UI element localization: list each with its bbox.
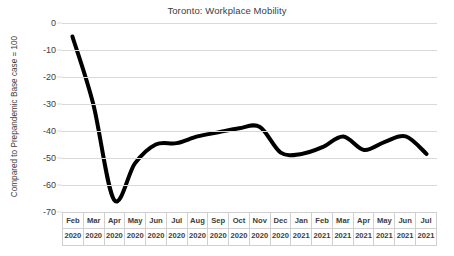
y-axis-tick-mark <box>57 77 62 78</box>
gridline <box>62 158 437 159</box>
x-axis-year-cell: 2020 <box>125 229 146 245</box>
x-axis-year-cell: 2020 <box>63 229 84 245</box>
x-axis-month-cell: Feb <box>63 213 84 229</box>
x-axis-month-cell: May <box>374 213 395 229</box>
x-axis-month-cell: Apr <box>104 213 125 229</box>
gridline <box>62 50 437 51</box>
x-axis-month-cell: Oct <box>229 213 250 229</box>
x-axis-month-cell: Nov <box>249 213 270 229</box>
gridline <box>62 23 437 24</box>
x-axis-labels: FebMarAprMayJunJulAugSepOctNovDecJanFebM… <box>62 212 437 246</box>
x-axis-month-cell: Jan <box>291 213 312 229</box>
y-axis-tick-mark <box>57 104 62 105</box>
x-axis-year-cell: 2021 <box>395 229 416 245</box>
y-axis-tick-label: -70 <box>24 207 56 217</box>
x-axis-month-cell: Jul <box>416 213 437 229</box>
x-axis-year-cell: 2020 <box>104 229 125 245</box>
x-axis-month-cell: Jun <box>146 213 167 229</box>
x-axis-year-cell: 2020 <box>249 229 270 245</box>
x-axis-year-cell: 2021 <box>416 229 437 245</box>
x-axis-year-cell: 2020 <box>187 229 208 245</box>
workplace-mobility-chart: Toronto: Workplace Mobility Compared to … <box>0 0 454 256</box>
x-axis-year-cell: 2020 <box>146 229 167 245</box>
series-path <box>72 37 426 202</box>
x-axis-month-row: FebMarAprMayJunJulAugSepOctNovDecJanFebM… <box>63 213 437 229</box>
chart-title: Toronto: Workplace Mobility <box>0 5 454 16</box>
y-axis-tick-mark <box>57 23 62 24</box>
y-axis-tick-mark <box>57 131 62 132</box>
x-axis-month-cell: Feb <box>312 213 333 229</box>
x-axis-year-cell: 2020 <box>229 229 250 245</box>
x-axis-year-cell: 2021 <box>312 229 333 245</box>
y-axis-tick-label: -30 <box>24 99 56 109</box>
gridline <box>62 104 437 105</box>
y-axis-tick-mark <box>57 50 62 51</box>
series-line-workplace-mobility <box>62 23 437 212</box>
x-axis-month-cell: Jun <box>395 213 416 229</box>
y-axis-tick-mark <box>57 185 62 186</box>
x-axis-year-cell: 2021 <box>353 229 374 245</box>
x-axis-year-cell: 2020 <box>208 229 229 245</box>
x-axis-month-cell: Jul <box>166 213 187 229</box>
x-axis-year-row: 2020202020202020202020202020202020202020… <box>63 229 437 245</box>
y-axis-tick-label: -40 <box>24 126 56 136</box>
y-axis-tick-label: 0 <box>24 18 56 28</box>
x-axis-year-cell: 2021 <box>291 229 312 245</box>
y-axis-tick-mark <box>57 158 62 159</box>
x-axis-year-cell: 2020 <box>270 229 291 245</box>
y-axis-tick-labels: 0-10-20-30-40-50-60-70 <box>24 0 56 256</box>
x-axis-year-cell: 2020 <box>166 229 187 245</box>
x-axis-month-cell: Mar <box>83 213 104 229</box>
y-axis-title: Compared to Prepandemic Base case = 100 <box>10 17 19 217</box>
y-axis-tick-mark <box>57 212 62 213</box>
x-axis-month-cell: May <box>125 213 146 229</box>
x-axis-year-cell: 2021 <box>374 229 395 245</box>
y-axis-tick-label: -20 <box>24 72 56 82</box>
x-axis-month-cell: Dec <box>270 213 291 229</box>
x-axis-year-cell: 2021 <box>332 229 353 245</box>
plot-area <box>62 23 437 212</box>
x-axis-month-cell: Apr <box>353 213 374 229</box>
x-axis-month-cell: Aug <box>187 213 208 229</box>
gridline <box>62 77 437 78</box>
x-axis-month-cell: Sep <box>208 213 229 229</box>
x-axis-year-cell: 2020 <box>83 229 104 245</box>
x-axis-month-cell: Mar <box>332 213 353 229</box>
y-axis-tick-label: -60 <box>24 180 56 190</box>
gridline <box>62 185 437 186</box>
y-axis-tick-label: -50 <box>24 153 56 163</box>
gridline <box>62 131 437 132</box>
y-axis-tick-label: -10 <box>24 45 56 55</box>
